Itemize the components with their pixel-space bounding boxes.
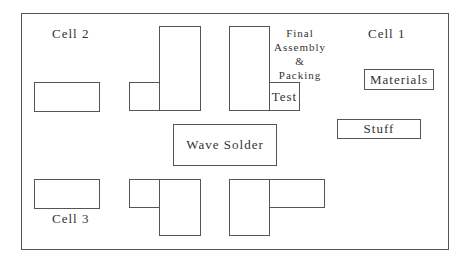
cell-2-small-station — [129, 82, 160, 111]
stuff-station: Stuff — [337, 119, 421, 139]
right-wide-station — [269, 179, 325, 208]
final-assembly-line-3: & — [270, 54, 330, 68]
cell-2-label: Cell 2 — [52, 26, 89, 42]
test-station: Test — [269, 82, 300, 111]
cell-3-small-station — [129, 179, 160, 208]
right-tall-station — [229, 179, 270, 236]
cell-3-station — [34, 179, 100, 209]
final-assembly-line-2: Assembly — [270, 40, 330, 54]
final-assembly-line-1: Final — [270, 26, 330, 40]
cell-3-tall-station — [159, 179, 201, 236]
final-assembly-station — [229, 26, 270, 111]
final-assembly-label: Final Assembly & Packing — [270, 26, 330, 82]
cell-3-label: Cell 3 — [52, 211, 89, 227]
cell-1-label: Cell 1 — [368, 26, 405, 42]
cell-2-station — [34, 82, 100, 112]
wave-solder-station: Wave Solder — [173, 124, 277, 166]
cell-2-tall-station — [159, 26, 201, 111]
final-assembly-line-4: Packing — [270, 68, 330, 82]
materials-station: Materials — [364, 69, 434, 90]
